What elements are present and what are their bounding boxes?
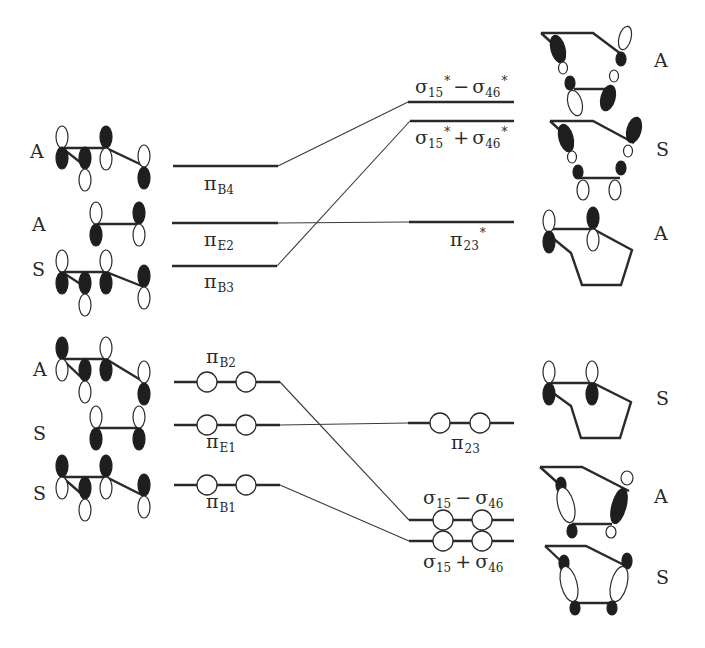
symmetry-label: S bbox=[33, 482, 46, 504]
label-pi23-star: π23* bbox=[450, 226, 486, 253]
left-orbital-pi-b1 bbox=[56, 455, 150, 521]
orbital-correlation-diagram: A A S A S S A S A S A S bbox=[0, 0, 705, 648]
electron-circle bbox=[433, 531, 453, 551]
electron-circle bbox=[433, 510, 453, 530]
right-orbital-sigma-star-plus bbox=[550, 116, 644, 200]
right-orbital-sigma-star-minus bbox=[541, 25, 634, 118]
correlation-line bbox=[278, 222, 409, 223]
left-orbital-pi-e2 bbox=[90, 202, 145, 246]
label-sigma-star-minus: σ15*−σ46* bbox=[415, 74, 507, 100]
left-orbital-pi-b3 bbox=[56, 250, 150, 316]
label-pi-b4: πB4 bbox=[204, 172, 234, 197]
correlation-line bbox=[278, 102, 408, 166]
electron-circle bbox=[236, 372, 256, 392]
correlation-line bbox=[277, 121, 410, 266]
left-symmetry-labels: A A S A S S bbox=[29, 140, 47, 504]
right-level-labels: σ15*−σ46* σ15*+σ46* π23* π23 σ15−σ46 σ15… bbox=[415, 74, 507, 575]
left-orbital-pi-e1 bbox=[90, 406, 145, 450]
symmetry-label: S bbox=[656, 387, 669, 409]
electron-circle bbox=[430, 413, 450, 433]
label-sigma-plus: σ15+σ46 bbox=[423, 550, 503, 575]
electron-circle bbox=[472, 531, 492, 551]
electron-circle bbox=[236, 415, 256, 435]
electron-circle bbox=[472, 510, 492, 530]
right-energy-levels bbox=[408, 102, 514, 551]
label-pi-b3: πB3 bbox=[204, 270, 234, 295]
label-pi23: π23 bbox=[451, 431, 480, 456]
correlation-lines bbox=[277, 102, 410, 541]
label-pi-b1: πB1 bbox=[206, 490, 236, 515]
right-symmetry-labels: A S A S A S bbox=[653, 49, 669, 588]
electron-circle bbox=[470, 413, 490, 433]
left-orbital-pi-b4 bbox=[56, 126, 150, 191]
left-orbital-pi-b2 bbox=[56, 337, 150, 405]
symmetry-label: A bbox=[31, 213, 46, 235]
symmetry-label: S bbox=[656, 138, 669, 160]
symmetry-label: A bbox=[653, 49, 668, 71]
electron-circle bbox=[236, 475, 256, 495]
label-pi-e2: πE2 bbox=[204, 228, 234, 253]
label-sigma-star-plus: σ15*+σ46* bbox=[415, 125, 507, 151]
right-orbital-sigma-plus bbox=[545, 546, 632, 615]
label-pi-e1: πE1 bbox=[206, 430, 236, 455]
symmetry-label: A bbox=[32, 358, 47, 380]
right-orbital-sigma-minus bbox=[540, 467, 633, 538]
symmetry-label: S bbox=[32, 258, 45, 280]
electron-circle bbox=[197, 372, 217, 392]
label-sigma-minus: σ15−σ46 bbox=[423, 486, 503, 511]
correlation-line bbox=[280, 382, 409, 520]
right-orbital-pi23 bbox=[543, 361, 631, 438]
symmetry-label: S bbox=[656, 566, 669, 588]
correlation-line bbox=[280, 423, 408, 425]
symmetry-label: A bbox=[29, 140, 44, 162]
symmetry-label: A bbox=[653, 485, 668, 507]
right-orbital-pi23-star bbox=[543, 207, 632, 285]
correlation-line bbox=[280, 485, 409, 541]
symmetry-label: S bbox=[33, 422, 46, 444]
label-pi-b2: πB2 bbox=[206, 345, 236, 370]
symmetry-label: A bbox=[653, 222, 668, 244]
